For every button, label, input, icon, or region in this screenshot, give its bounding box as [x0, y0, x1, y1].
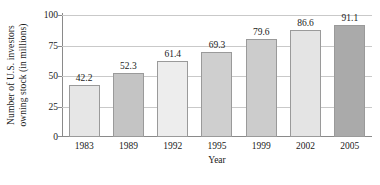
- bar-chart: Number of U.S. investors owning stock (i…: [0, 0, 380, 185]
- bar: 79.6: [246, 39, 277, 137]
- bar: 42.2: [69, 85, 100, 137]
- x-axis-tick-labels: 1983198919921995199920022005: [62, 140, 372, 154]
- x-tick-label: 1989: [106, 140, 150, 154]
- bar-series: 42.252.361.469.379.686.691.1: [62, 14, 372, 137]
- bar-slot: 61.4: [151, 14, 195, 137]
- bar-value-label: 69.3: [209, 40, 226, 51]
- x-tick-label: 1999: [239, 140, 283, 154]
- bar-slot: 86.6: [283, 14, 327, 137]
- bar-value-label: 42.2: [76, 73, 93, 84]
- y-axis-tick-labels: 100 75 50 25 0: [34, 0, 58, 150]
- bar-value-label: 52.3: [120, 61, 137, 72]
- x-tick-label: 2002: [283, 140, 327, 154]
- x-tick-label: 1995: [195, 140, 239, 154]
- plot-area: 42.252.361.469.379.686.691.1: [62, 14, 372, 137]
- bar: 61.4: [157, 61, 188, 137]
- bar-value-label: 79.6: [253, 27, 270, 38]
- bar-value-label: 91.1: [342, 13, 359, 24]
- y-axis-title-line2: owning stock (in millions): [17, 0, 29, 150]
- x-tick-label: 1992: [151, 140, 195, 154]
- bar-slot: 91.1: [328, 14, 372, 137]
- y-tick-label: 25: [36, 102, 58, 112]
- bar: 86.6: [290, 30, 321, 137]
- y-tick-label: 50: [36, 71, 58, 81]
- x-tick-label: 2005: [328, 140, 372, 154]
- bar: 91.1: [334, 25, 365, 137]
- bar: 69.3: [201, 52, 232, 137]
- x-axis-title: Year: [62, 154, 372, 166]
- y-tick-label: 75: [36, 41, 58, 51]
- bar-slot: 79.6: [239, 14, 283, 137]
- y-tick-label: 0: [36, 132, 58, 142]
- bar-value-label: 61.4: [164, 49, 181, 60]
- y-axis-title-line1: Number of U.S. investors: [5, 0, 17, 150]
- y-tick-label: 100: [36, 10, 58, 20]
- y-axis-title: Number of U.S. investors owning stock (i…: [0, 0, 34, 150]
- bar-value-label: 86.6: [297, 18, 314, 29]
- bar-slot: 52.3: [106, 14, 150, 137]
- bar-slot: 42.2: [62, 14, 106, 137]
- bar-slot: 69.3: [195, 14, 239, 137]
- bar: 52.3: [113, 73, 144, 137]
- x-tick-label: 1983: [62, 140, 106, 154]
